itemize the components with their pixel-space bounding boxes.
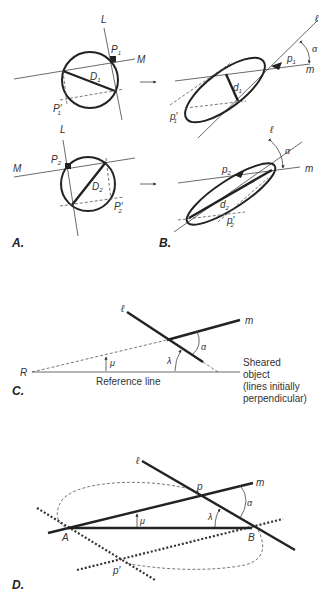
label-P2-prime: P′2 <box>114 201 124 214</box>
panel-a-bottom: L M P2 D2 P′2 <box>13 124 135 236</box>
projection-v <box>106 158 111 200</box>
label-mu: μ <box>139 516 145 526</box>
alpha-arc <box>193 331 199 354</box>
caption-line-2: object <box>243 369 270 380</box>
alpha-arc <box>240 485 246 518</box>
label-D2: D2 <box>92 181 103 193</box>
label-p: p <box>196 481 203 492</box>
label-m: m <box>306 64 314 75</box>
line-R-to-p <box>32 340 167 372</box>
caption-line-1: Sheared <box>243 357 281 368</box>
point-P1-marker <box>110 56 116 62</box>
label-m: m <box>245 315 253 326</box>
panel-label-A: A. <box>11 236 24 250</box>
label-p2: p2 <box>221 164 232 176</box>
label-d2: d2 <box>220 199 230 211</box>
label-lambda: λ <box>207 512 212 522</box>
label-l: ℓ <box>120 303 125 314</box>
label-l: ℓ <box>135 455 140 466</box>
label-alpha: α <box>285 146 291 156</box>
label-p2-prime: p′2 <box>226 215 236 228</box>
label-l: ℓ <box>269 124 274 135</box>
label-p1-prime: p′1 <box>169 111 179 124</box>
point-P2-marker <box>65 163 71 169</box>
reference-line-label: Reference line <box>96 376 161 387</box>
ellipse <box>176 47 274 134</box>
label-M: M <box>13 163 22 174</box>
diameter-D1 <box>63 71 115 91</box>
label-P1-prime: P′1 <box>53 103 63 116</box>
label-R: R <box>20 367 27 378</box>
label-M: M <box>137 54 146 65</box>
label-lambda: λ <box>166 356 171 366</box>
label-p-prime: p′ <box>112 565 122 576</box>
label-m: m <box>256 477 264 488</box>
line-L <box>104 28 122 120</box>
caption-line-4: perpendicular) <box>243 393 307 404</box>
label-B: B <box>248 532 255 543</box>
panel-a-top: L M P1 D1 P′1 <box>14 14 146 120</box>
caption-line-3: (lines initially <box>243 381 300 392</box>
label-A: A <box>61 532 69 543</box>
label-P2: P2 <box>51 154 62 166</box>
label-P1: P1 <box>111 44 121 56</box>
panel-label-C: C. <box>12 384 24 398</box>
label-m: m <box>305 163 313 174</box>
line-l-extension <box>203 362 218 372</box>
line-m <box>167 320 240 340</box>
label-L: L <box>101 14 107 25</box>
label-l: ℓ <box>314 13 319 24</box>
label-mu: μ <box>109 358 115 368</box>
panel-d: ℓ m p α μ λ A B p′ <box>37 455 295 580</box>
label-L: L <box>60 124 66 135</box>
panel-label-D: D. <box>12 578 24 592</box>
label-alpha: α <box>312 44 318 54</box>
lambda-arc <box>215 509 220 527</box>
label-D1: D1 <box>90 71 101 83</box>
panel-b-top: ℓ m α p1 d1 p′1 <box>169 13 319 138</box>
projection-v <box>170 62 232 105</box>
diameter-D2 <box>72 162 106 205</box>
angle-alpha-arc <box>302 43 309 63</box>
panel-b-bottom: ℓ m α p2 d2 p′2 <box>174 124 313 234</box>
panel-label-B: B. <box>159 236 171 250</box>
line-l <box>198 20 318 138</box>
lambda-arc <box>175 350 181 371</box>
line-L <box>63 140 78 236</box>
label-alpha: α <box>201 342 207 352</box>
line-l <box>127 312 203 362</box>
shear-diagram: L M P1 D1 P′1 L M P2 D2 P′2 A. ℓ m α p1 … <box>0 0 327 598</box>
label-d1: d1 <box>233 82 242 94</box>
circle-trace <box>57 482 262 569</box>
line-m <box>175 64 310 81</box>
label-alpha: α <box>247 498 253 508</box>
panel-c: ℓ m α μ λ R Reference line Sheared objec… <box>20 303 307 404</box>
label-p1: p1 <box>286 53 296 65</box>
